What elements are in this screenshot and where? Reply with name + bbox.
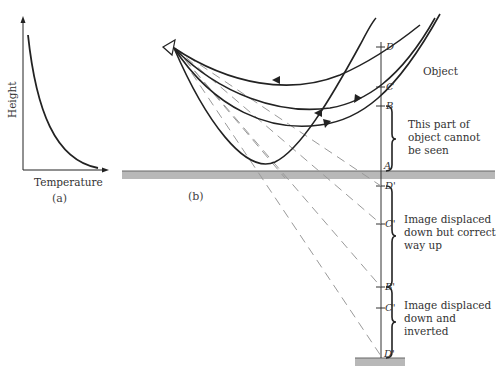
object-label: Object	[423, 65, 458, 78]
eye-icon	[163, 40, 175, 55]
brace-upright	[386, 186, 396, 287]
ground-surface	[122, 171, 495, 179]
point-d-prime-inverted: D'	[384, 348, 395, 359]
x-axis-label: Temperature	[34, 176, 103, 189]
point-c: C	[386, 81, 394, 92]
point-b: B	[386, 100, 393, 111]
panel-a-chart	[21, 16, 110, 173]
annotation-upright: Image displaced down but correct way up	[404, 213, 496, 252]
point-c-prime-inverted: C'	[385, 302, 395, 313]
caption-a: (a)	[52, 192, 67, 205]
ground-surface-lower	[355, 358, 405, 366]
caption-b: (b)	[188, 190, 204, 203]
point-d-prime: D'	[385, 180, 396, 191]
light-rays	[174, 14, 440, 164]
annotation-inverted: Image displaced down and inverted	[404, 299, 491, 338]
y-axis-label: Height	[6, 82, 18, 118]
point-c-prime: C'	[385, 218, 395, 229]
apparent-sightlines	[175, 48, 381, 356]
point-d: D	[386, 41, 394, 52]
point-b-prime: B'	[385, 281, 395, 292]
point-a: A	[384, 160, 391, 171]
annotation-hidden: This part of object cannot be seen	[408, 118, 480, 157]
